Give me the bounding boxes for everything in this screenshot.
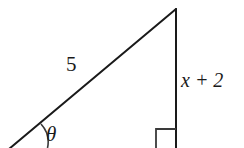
right-angle-marker [156, 129, 176, 148]
triangle-figure: 5 x + 2 θ [0, 0, 244, 148]
hypotenuse-label: 5 [66, 54, 77, 75]
opposite-side-label: x + 2 [181, 70, 223, 90]
hypotenuse-line [9, 9, 176, 148]
angle-theta-label: θ [46, 124, 56, 145]
